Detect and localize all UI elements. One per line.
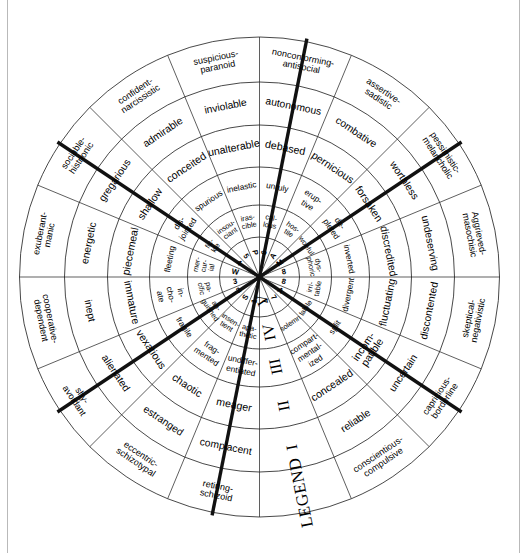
- svg-text:3: 3: [232, 277, 238, 287]
- svg-text:fleeting: fleeting: [162, 245, 177, 274]
- svg-text:unalterable: unalterable: [207, 136, 261, 158]
- diagram-page: retiring-schizoidcomplacentmeagerundiffe…: [0, 0, 530, 553]
- sector-9-level-II: combative: [334, 114, 379, 149]
- svg-text:energetic: energetic: [79, 221, 98, 265]
- sector-4-level-I: exuberant-manic: [31, 211, 59, 257]
- legend-level-II: II: [274, 399, 293, 413]
- sector-5-level-IV: dis-jointed: [167, 210, 198, 243]
- sector-5-level-II: gregarious: [97, 157, 133, 204]
- sector-14-level-II: reliable: [339, 407, 373, 435]
- svg-text:uncertain: uncertain: [387, 352, 420, 394]
- sector-12-core-code: 8: [281, 277, 287, 287]
- svg-text:combative: combative: [334, 114, 379, 149]
- svg-text:reliable: reliable: [339, 407, 373, 435]
- sector-3-core-code: 3: [232, 277, 238, 287]
- sector-2-level-III: vexatious: [134, 327, 169, 371]
- sector-7-level-I: suspicious-paranoid: [193, 48, 241, 76]
- sector-0-level-I: retiring-schizoid: [199, 478, 235, 503]
- sector-14-level-V: solemn: [278, 313, 303, 334]
- svg-text:table: table: [312, 280, 324, 297]
- svg-text:II: II: [274, 399, 293, 413]
- svg-text:estranged: estranged: [141, 403, 185, 438]
- sector-12-level-I: skeptical-negativistic: [459, 295, 487, 343]
- sector-7-level-III: unalterable: [207, 136, 261, 158]
- sector-6-level-II: admirable: [141, 115, 185, 149]
- sector-8-core-code: 6: [259, 250, 269, 256]
- sector-11-level-I: Aggrieved-masochisic: [460, 210, 488, 258]
- svg-text:worthless: worthless: [387, 158, 421, 201]
- sector-4-core-code: W: [231, 267, 241, 277]
- legend-level-III: III: [266, 357, 286, 376]
- sector-6-level-III: conceited: [164, 149, 208, 184]
- sector-8-level-V: cal-lous: [262, 212, 279, 231]
- svg-text:divergent: divergent: [340, 276, 357, 312]
- svg-text:IV: IV: [259, 322, 279, 342]
- sector-12-level-II: discontented: [418, 281, 440, 341]
- svg-text:I: I: [283, 443, 301, 452]
- sector-10-level-III: forsaken: [353, 183, 386, 224]
- svg-text:chaotic: chaotic: [170, 371, 205, 400]
- legend-level-IV: IV: [259, 322, 279, 342]
- svg-text:piecemeal: piecemeal: [119, 226, 140, 276]
- svg-text:undeserving: undeserving: [420, 214, 442, 271]
- svg-text:conceited: conceited: [164, 149, 208, 184]
- sector-4-level-V: mer-cur-ial: [191, 256, 218, 276]
- sector-9-level-I: assertive-sadistic: [359, 76, 403, 114]
- sector-10-level-II: worthless: [387, 158, 421, 201]
- svg-text:8: 8: [281, 267, 287, 277]
- svg-text:unruly: unruly: [265, 180, 290, 194]
- sector-12-level-IV: divergent: [340, 276, 357, 312]
- svg-text:inept: inept: [83, 299, 98, 323]
- sector-1-level-III: chaotic: [170, 371, 205, 400]
- svg-text:cific: cific: [196, 282, 207, 296]
- svg-text:inverted: inverted: [342, 244, 358, 275]
- sector-13-level-V: labile: [297, 298, 314, 317]
- sector-6-level-I: confident-narcissistic: [114, 74, 162, 115]
- sector-11-level-V: dys-phoric: [305, 255, 325, 278]
- sector-5-level-I: sociable-histrionic: [59, 135, 95, 176]
- sector-13-level-I: capricious-borderline: [420, 374, 461, 421]
- sector-0-level-IV: undiffer-entiated: [225, 352, 259, 378]
- svg-text:admirable: admirable: [141, 115, 185, 149]
- svg-text:lous: lous: [262, 220, 277, 232]
- svg-text:forsaken: forsaken: [353, 183, 386, 224]
- svg-text:ial: ial: [206, 263, 216, 272]
- svg-text:inviolable: inviolable: [203, 96, 248, 115]
- svg-text:W: W: [231, 267, 241, 277]
- svg-text:cible: cible: [241, 219, 257, 231]
- svg-text:8: 8: [281, 277, 287, 287]
- svg-text:vexatious: vexatious: [134, 327, 169, 371]
- svg-text:fluctuating: fluctuating: [376, 277, 397, 327]
- sector-2-level-II: alienated: [100, 353, 133, 394]
- svg-text:discredited: discredited: [378, 225, 400, 278]
- svg-text:woeful: woeful: [296, 233, 316, 257]
- sector-9-level-IV: erup-tive: [297, 187, 325, 215]
- svg-text:fragile: fragile: [174, 315, 195, 340]
- sector-4-level-II: energetic: [79, 221, 98, 265]
- sector-7-level-IV: inelastic: [226, 179, 257, 195]
- legend-level-I: I: [283, 443, 301, 452]
- svg-text:discontented: discontented: [418, 281, 440, 341]
- svg-text:LEGEND: LEGEND: [285, 456, 317, 529]
- sector-5-level-III: shallow: [135, 185, 165, 221]
- sector-11-level-III: discredited: [378, 225, 400, 278]
- sector-2-level-I: shy-avoidant: [61, 378, 96, 418]
- sector-14-level-I: conscientious-compulsive: [351, 434, 410, 482]
- svg-text:solemn: solemn: [278, 313, 303, 334]
- svg-text:ate: ate: [155, 290, 167, 304]
- sector-4-level-IV: fleeting: [162, 245, 177, 274]
- svg-text:gregarious: gregarious: [97, 157, 133, 204]
- sector-7-level-V: iras-cible: [239, 212, 257, 231]
- svg-text:inelastic: inelastic: [226, 179, 257, 195]
- svg-text:split: split: [326, 318, 343, 336]
- sector-12-level-III: fluctuating: [376, 277, 397, 327]
- sector-1-level-II: estranged: [141, 403, 185, 438]
- sector-13-level-IV: split: [326, 318, 343, 336]
- svg-text:immature: immature: [122, 279, 142, 325]
- sector-3-level-III: immature: [122, 279, 142, 325]
- sector-1-level-I: eccentric-schizotypal: [114, 438, 162, 479]
- circumplex-wheel: retiring-schizoidcomplacentmeagerundiffe…: [0, 0, 530, 553]
- svg-text:alienated: alienated: [100, 353, 133, 394]
- sector-10-level-I: pessimistic-melancholic: [420, 130, 463, 181]
- sector-0-level-V: apa-thetic: [239, 322, 260, 342]
